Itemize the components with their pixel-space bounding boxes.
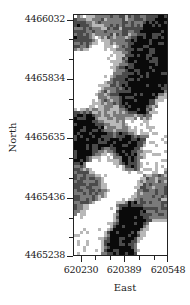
y-minor-tick	[69, 158, 73, 159]
x-major-tick	[81, 256, 82, 262]
y-minor-tick	[69, 218, 73, 219]
x-minor-tick	[154, 256, 155, 260]
y-major-tick	[67, 20, 73, 21]
y-minor-tick	[69, 99, 73, 100]
x-major-tick	[167, 256, 168, 262]
y-axis-title: North	[7, 118, 18, 158]
x-minor-tick	[139, 256, 140, 260]
y-major-tick	[67, 79, 73, 80]
y-tick-label: 4465436	[5, 191, 65, 202]
x-tick-label: 620230	[59, 264, 103, 275]
y-tick-label: 4465834	[5, 72, 65, 83]
y-minor-tick	[69, 119, 73, 120]
y-minor-tick	[69, 39, 73, 40]
y-major-tick	[67, 138, 73, 139]
x-minor-tick	[110, 256, 111, 260]
y-major-tick	[67, 198, 73, 199]
y-tick-label: 4465238	[5, 249, 65, 260]
y-tick-label: 4466032	[5, 13, 65, 24]
x-axis-title: East	[105, 282, 145, 293]
y-minor-tick	[69, 178, 73, 179]
map-figure: 4466032 4465834 4465635 4465436 4465238 …	[0, 0, 190, 305]
y-minor-tick	[69, 59, 73, 60]
x-major-tick	[124, 256, 125, 262]
x-minor-tick	[95, 256, 96, 260]
x-tick-label: 620389	[102, 264, 146, 275]
raster-map	[74, 15, 168, 256]
x-tick-label: 620548	[146, 264, 190, 275]
raster-map-area	[73, 14, 168, 256]
y-major-tick	[67, 256, 73, 257]
y-minor-tick	[69, 237, 73, 238]
